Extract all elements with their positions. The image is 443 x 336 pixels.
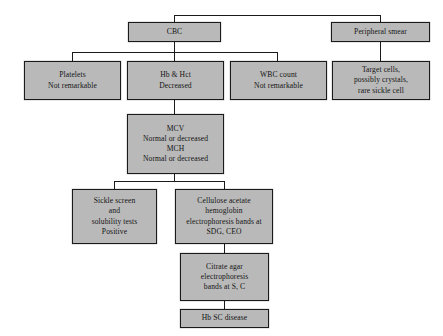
node-citrate-agar-line-3: bands at S, C xyxy=(204,282,245,292)
node-target-cells-line-1: Target cells, xyxy=(362,65,400,75)
node-mcv-mch-line-3: MCH xyxy=(167,144,185,154)
node-hb-hct-line-2: Decreased xyxy=(159,81,192,91)
node-cellulose-acetate-line-2: hemoglobin xyxy=(205,206,242,216)
node-hb-hct[interactable]: Hb & Hct Decreased xyxy=(127,61,224,100)
node-sickle-screen[interactable]: Sickle screen and solubility tests Posit… xyxy=(72,189,157,244)
node-wbc-count[interactable]: WBC count Not remarkable xyxy=(230,61,327,100)
node-sickle-screen-line-3: solubility tests xyxy=(92,217,138,227)
node-mcv-mch-line-2: Normal or decreased xyxy=(143,134,208,144)
node-cellulose-acetate-line-4: SDG, CEO xyxy=(207,227,242,237)
connector-hb-hct-to-mcv xyxy=(174,99,175,115)
node-platelets[interactable]: Platelets Not remarkable xyxy=(24,61,121,100)
node-target-cells-line-3: rare sickle cell xyxy=(358,86,404,96)
node-sickle-screen-line-2: and xyxy=(109,206,120,216)
node-cbc[interactable]: CBC xyxy=(128,22,221,42)
connector-root-horizontal xyxy=(174,15,381,16)
node-mcv-mch-line-1: MCV xyxy=(167,124,185,134)
node-citrate-agar[interactable]: Citrate agar electrophoresis bands at S,… xyxy=(180,253,269,301)
node-sickle-screen-line-4: Positive xyxy=(102,227,127,237)
node-wbc-count-line-2: Not remarkable xyxy=(254,81,303,91)
node-platelets-line-2: Not remarkable xyxy=(48,81,97,91)
node-platelets-line-1: Platelets xyxy=(59,70,86,80)
node-mcv-mch-line-4: Normal or decreased xyxy=(143,154,208,164)
node-cellulose-acetate[interactable]: Cellulose acetate hemoglobin electrophor… xyxy=(175,189,273,244)
node-citrate-agar-line-2: electrophoresis xyxy=(201,272,248,282)
node-cellulose-acetate-line-1: Cellulose acetate xyxy=(197,196,250,206)
node-mcv-mch[interactable]: MCV Normal or decreased MCH Normal or de… xyxy=(127,114,224,174)
node-sickle-screen-line-1: Sickle screen xyxy=(94,196,136,206)
node-hb-hct-line-1: Hb & Hct xyxy=(160,70,191,80)
node-peripheral-smear[interactable]: Peripheral smear xyxy=(331,22,430,42)
node-wbc-count-line-1: WBC count xyxy=(260,70,297,80)
node-cellulose-acetate-line-3: electrophoresis bands at xyxy=(186,217,261,227)
node-cbc-line-1: CBC xyxy=(167,27,183,37)
node-target-cells[interactable]: Target cells, possibly crystals, rare si… xyxy=(332,61,430,100)
node-hb-sc-disease-line-1: Hb SC disease xyxy=(202,313,248,323)
connector-peripheral-smear-to-target-cells xyxy=(380,41,381,62)
node-citrate-agar-line-1: Citrate agar xyxy=(206,262,243,272)
node-target-cells-line-2: possibly crystals, xyxy=(354,75,408,85)
node-hb-sc-disease[interactable]: Hb SC disease xyxy=(180,309,269,328)
flowchart-canvas: CBC Peripheral smear Platelets Not remar… xyxy=(0,0,443,336)
node-peripheral-smear-line-1: Peripheral smear xyxy=(354,27,407,37)
connector-mcv-children-horizontal xyxy=(114,181,225,182)
